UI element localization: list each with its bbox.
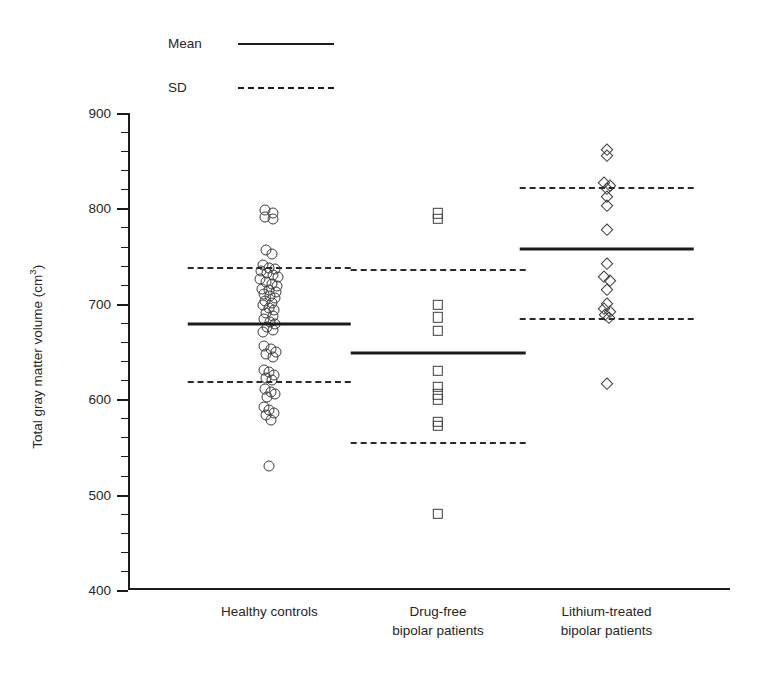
y-tick-minor xyxy=(121,514,128,515)
chart-figure: Mean SD Total gray matter volume (cm3) 9… xyxy=(0,0,762,677)
data-point-square xyxy=(433,365,443,375)
y-tick-label: 700 xyxy=(51,296,111,311)
legend-swatch-sd-line xyxy=(238,87,334,89)
sd-upper-line xyxy=(519,187,694,189)
y-tick-minor xyxy=(121,151,128,152)
y-axis-line xyxy=(128,113,130,590)
y-tick-minor xyxy=(121,476,128,477)
y-axis-title-exponent: 3 xyxy=(27,269,38,274)
sd-upper-line xyxy=(351,269,526,271)
data-point-circle xyxy=(267,249,278,260)
sd-lower-line xyxy=(188,381,351,383)
data-point-square xyxy=(433,508,443,518)
mean-line xyxy=(188,322,351,325)
legend-entry-mean: Mean xyxy=(168,34,368,54)
plot-area: 900800700600500400 Healthy controlsDrug-… xyxy=(128,113,730,590)
data-point-circle xyxy=(258,327,269,338)
data-point-diamond xyxy=(600,199,613,212)
data-point-square xyxy=(433,300,443,310)
y-tick-major xyxy=(117,113,128,115)
y-tick-minor xyxy=(121,189,128,190)
y-tick-minor xyxy=(121,323,128,324)
y-tick-minor xyxy=(121,418,128,419)
sd-upper-line xyxy=(188,267,351,269)
y-tick-major xyxy=(117,208,128,210)
chart-legend: Mean SD xyxy=(168,28,368,104)
sd-lower-line xyxy=(351,442,526,444)
data-point-circle xyxy=(264,460,275,471)
y-axis-title-tail: ) xyxy=(30,265,45,270)
data-point-square xyxy=(433,325,443,335)
y-tick-minor xyxy=(121,285,128,286)
data-point-circle xyxy=(268,213,279,224)
data-point-circle xyxy=(268,352,279,363)
y-tick-minor xyxy=(121,342,128,343)
y-tick-label: 500 xyxy=(51,487,111,502)
y-tick-minor xyxy=(121,552,128,553)
y-tick-minor xyxy=(121,266,128,267)
legend-label-sd: SD xyxy=(168,78,187,98)
y-tick-minor xyxy=(121,380,128,381)
y-tick-minor xyxy=(121,170,128,171)
x-axis-category-label: Lithium-treated bipolar patients xyxy=(507,602,707,640)
y-tick-minor xyxy=(121,533,128,534)
x-axis-line xyxy=(128,588,730,590)
y-tick-minor xyxy=(121,247,128,248)
y-axis-title-text: Total gray matter volume (cm xyxy=(30,275,45,449)
legend-entry-sd: SD xyxy=(168,78,368,98)
mean-line xyxy=(519,248,694,251)
y-tick-major xyxy=(117,495,128,497)
y-tick-label: 900 xyxy=(51,106,111,121)
y-tick-minor xyxy=(121,456,128,457)
y-tick-minor xyxy=(121,361,128,362)
data-point-circle xyxy=(268,324,279,335)
y-tick-major xyxy=(117,304,128,306)
y-tick-minor xyxy=(121,132,128,133)
data-point-diamond xyxy=(600,257,613,270)
y-tick-label: 400 xyxy=(51,583,111,598)
y-tick-minor xyxy=(121,227,128,228)
data-point-square xyxy=(433,421,443,431)
y-tick-minor xyxy=(121,571,128,572)
data-point-square xyxy=(433,214,443,224)
y-axis-title: Total gray matter volume (cm3) xyxy=(27,187,45,527)
y-tick-major xyxy=(117,590,128,592)
y-tick-major xyxy=(117,399,128,401)
sd-lower-line xyxy=(519,318,694,320)
data-point-diamond xyxy=(600,377,613,390)
data-point-circle xyxy=(266,415,277,426)
data-point-square xyxy=(433,312,443,322)
y-tick-minor xyxy=(121,437,128,438)
legend-label-mean: Mean xyxy=(168,34,202,54)
data-point-diamond xyxy=(600,224,613,237)
legend-swatch-mean-line xyxy=(238,43,334,45)
y-tick-label: 600 xyxy=(51,392,111,407)
y-tick-label: 800 xyxy=(51,201,111,216)
mean-line xyxy=(351,352,526,355)
data-point-square xyxy=(433,394,443,404)
